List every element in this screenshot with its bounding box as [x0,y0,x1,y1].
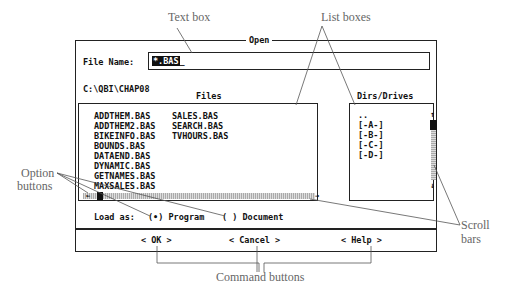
callout-lines [0,0,507,293]
